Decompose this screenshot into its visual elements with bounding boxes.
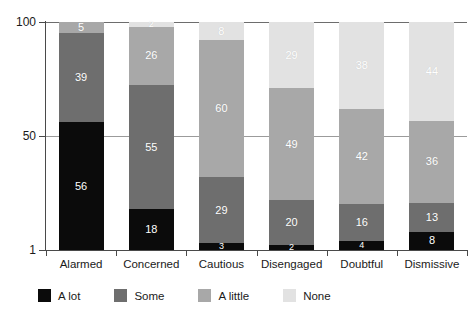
x-axis-tick bbox=[257, 250, 258, 256]
bar-segment[interactable]: 26 bbox=[129, 27, 174, 86]
x-axis-category-label: Dismissive bbox=[397, 258, 467, 270]
stacked-bar[interactable]: 4436138 bbox=[409, 22, 454, 250]
legend-label: None bbox=[303, 290, 331, 302]
bar-segment[interactable]: 55 bbox=[129, 85, 174, 209]
bar-segment-value: 18 bbox=[145, 224, 157, 235]
bar-segment[interactable]: 60 bbox=[199, 40, 244, 177]
bar-segment[interactable]: 3 bbox=[199, 243, 244, 250]
legend-item[interactable]: A little bbox=[198, 289, 249, 302]
stacked-bar[interactable]: 3842164 bbox=[339, 22, 384, 250]
stacked-bar[interactable]: 53956 bbox=[59, 22, 104, 250]
x-axis-category-label: Concerned bbox=[116, 258, 186, 270]
bar-segment-value: 42 bbox=[356, 151, 368, 162]
bar-segment-value: 4 bbox=[359, 241, 364, 250]
bar-segment-value: 26 bbox=[145, 50, 157, 61]
stacked-bar-chart: 100 50 1 5395622655188602932949202384216… bbox=[0, 0, 475, 321]
legend-item[interactable]: None bbox=[283, 289, 331, 302]
x-axis-tick bbox=[186, 250, 187, 256]
stacked-bar[interactable]: 2949202 bbox=[269, 22, 314, 250]
bar-segment[interactable]: 49 bbox=[269, 88, 314, 200]
chart-legend: A lotSomeA littleNone bbox=[38, 289, 438, 302]
bar-segment[interactable]: 38 bbox=[339, 22, 384, 109]
legend-label: Some bbox=[134, 290, 164, 302]
x-axis-tick bbox=[397, 250, 398, 256]
legend-swatch-icon bbox=[38, 289, 51, 302]
bar-segment-value: 8 bbox=[218, 26, 224, 37]
bar-slot: 53956 bbox=[46, 22, 116, 250]
bar-slot: 2265518 bbox=[116, 22, 186, 250]
y-tick-1 bbox=[39, 250, 46, 251]
legend-swatch-icon bbox=[283, 289, 296, 302]
bar-slot: 4436138 bbox=[397, 22, 467, 250]
bar-segment[interactable]: 44 bbox=[409, 22, 454, 121]
bar-segment[interactable]: 56 bbox=[59, 122, 104, 250]
x-axis-category-label: Alarmed bbox=[46, 258, 116, 270]
bar-segment-value: 16 bbox=[356, 217, 368, 228]
bar-segment[interactable]: 39 bbox=[59, 33, 104, 122]
bar-segment-value: 5 bbox=[78, 22, 84, 33]
bar-segment[interactable]: 5 bbox=[59, 22, 104, 33]
x-axis-category-labels: AlarmedConcernedCautiousDisengagedDoubtf… bbox=[46, 258, 467, 270]
bar-group: 539562265518860293294920238421644436138 bbox=[46, 22, 467, 250]
x-axis-tick bbox=[116, 250, 117, 256]
x-axis-category-label: Disengaged bbox=[257, 258, 327, 270]
legend-label: A lot bbox=[58, 290, 80, 302]
legend-swatch-icon bbox=[198, 289, 211, 302]
bar-segment-value: 60 bbox=[215, 103, 227, 114]
y-axis-label-50: 50 bbox=[2, 129, 36, 143]
bar-slot: 2949202 bbox=[257, 22, 327, 250]
bar-segment-value: 44 bbox=[426, 66, 438, 77]
bar-slot: 860293 bbox=[186, 22, 256, 250]
bar-segment[interactable]: 16 bbox=[339, 204, 384, 240]
bar-segment-value: 29 bbox=[215, 205, 227, 216]
bar-segment-value: 29 bbox=[285, 50, 297, 61]
bar-segment-value: 20 bbox=[285, 217, 297, 228]
bar-segment-value: 49 bbox=[285, 139, 297, 150]
bar-segment[interactable]: 4 bbox=[339, 241, 384, 250]
bar-segment[interactable]: 8 bbox=[199, 22, 244, 40]
x-tick-group bbox=[46, 250, 467, 256]
bar-segment-value: 8 bbox=[429, 235, 435, 246]
x-axis-category-label: Doubtful bbox=[327, 258, 397, 270]
x-axis-tick bbox=[327, 250, 328, 256]
stacked-bar[interactable]: 2265518 bbox=[129, 22, 174, 250]
bar-segment[interactable]: 20 bbox=[269, 200, 314, 246]
legend-swatch-icon bbox=[114, 289, 127, 302]
bar-segment[interactable]: 13 bbox=[409, 203, 454, 232]
bar-segment-value: 39 bbox=[75, 72, 87, 83]
x-axis-tick bbox=[46, 250, 47, 256]
y-tick-100 bbox=[39, 22, 46, 23]
bar-segment[interactable]: 42 bbox=[339, 109, 384, 205]
stacked-bar[interactable]: 860293 bbox=[199, 22, 244, 250]
bar-segment-value: 56 bbox=[75, 181, 87, 192]
bar-segment-value: 13 bbox=[426, 212, 438, 223]
legend-item[interactable]: Some bbox=[114, 289, 164, 302]
bar-segment[interactable]: 29 bbox=[199, 177, 244, 243]
bar-segment[interactable]: 18 bbox=[129, 209, 174, 250]
bar-segment[interactable]: 36 bbox=[409, 121, 454, 202]
y-tick-50 bbox=[39, 136, 46, 137]
legend-label: A little bbox=[218, 290, 249, 302]
legend-item[interactable]: A lot bbox=[38, 289, 80, 302]
y-axis-label-1: 1 bbox=[2, 243, 36, 257]
bar-segment-value: 38 bbox=[356, 60, 368, 71]
bar-segment[interactable]: 29 bbox=[269, 22, 314, 88]
y-axis-label-100: 100 bbox=[2, 15, 36, 29]
bar-segment-value: 36 bbox=[426, 156, 438, 167]
bar-segment-value: 55 bbox=[145, 142, 157, 153]
x-axis-tick bbox=[467, 250, 468, 256]
bar-segment[interactable]: 8 bbox=[409, 232, 454, 250]
x-axis-category-label: Cautious bbox=[186, 258, 256, 270]
bar-slot: 3842164 bbox=[327, 22, 397, 250]
